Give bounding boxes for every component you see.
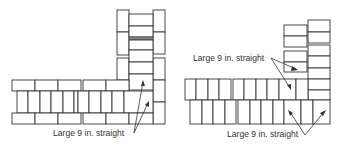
brick-corner-diagram: Large 9 in. straight <box>0 0 340 148</box>
label-right-top: Large 9 in. straight <box>193 53 265 63</box>
label-left: Large 9 in. straight <box>53 128 125 138</box>
label-right-bottom: Large 9 in. straight <box>227 129 299 139</box>
right-figure: Large 9 in. straight Large 9 in. straigh… <box>185 20 330 139</box>
left-figure: Large 9 in. straight <box>12 10 165 138</box>
